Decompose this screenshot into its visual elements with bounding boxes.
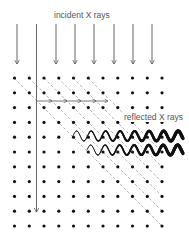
atom-dot bbox=[146, 76, 149, 79]
atom-dot bbox=[146, 224, 149, 227]
atom-dot bbox=[160, 91, 163, 94]
atom-dot bbox=[131, 91, 134, 94]
atom-dot bbox=[72, 224, 75, 227]
atom-dot bbox=[72, 180, 75, 183]
atom-dot bbox=[87, 91, 90, 94]
reflected-xrays-label: reflected X rays bbox=[123, 113, 184, 122]
atom-dot bbox=[146, 106, 149, 109]
atom-dot bbox=[116, 195, 119, 198]
atom-dot bbox=[57, 136, 60, 139]
atom-dot bbox=[42, 224, 45, 227]
atom-dot bbox=[72, 150, 75, 153]
atom-dot bbox=[42, 106, 45, 109]
atom-dot bbox=[116, 150, 119, 153]
atom-dot bbox=[146, 195, 149, 198]
atom-dot bbox=[160, 150, 163, 153]
atom-dot bbox=[131, 224, 134, 227]
atom-dot bbox=[42, 165, 45, 168]
atom-dot bbox=[28, 150, 31, 153]
atom-dot bbox=[101, 195, 104, 198]
atom-dot bbox=[57, 224, 60, 227]
atom-dot bbox=[13, 195, 16, 198]
atom-dot bbox=[13, 224, 16, 227]
atom-dot bbox=[57, 121, 60, 124]
atom-dot bbox=[116, 106, 119, 109]
atom-dot bbox=[116, 165, 119, 168]
atom-dot bbox=[72, 106, 75, 109]
incident-ray-arrows bbox=[17, 24, 152, 64]
atom-dot bbox=[28, 91, 31, 94]
atom-dot bbox=[28, 121, 31, 124]
atom-dot bbox=[131, 150, 134, 153]
atom-dot bbox=[42, 195, 45, 198]
atom-dot bbox=[28, 136, 31, 139]
atom-dot bbox=[146, 210, 149, 213]
atom-dot bbox=[87, 210, 90, 213]
atom-dot bbox=[116, 76, 119, 79]
atom-dot bbox=[72, 91, 75, 94]
atom-dot bbox=[28, 210, 31, 213]
atom-dot bbox=[28, 180, 31, 183]
atom-dot bbox=[13, 210, 16, 213]
atom-dot bbox=[131, 210, 134, 213]
atom-dot bbox=[13, 121, 16, 124]
reflected-wave-icon bbox=[73, 131, 183, 141]
reflected-wave-icon bbox=[87, 145, 183, 155]
atom-dot bbox=[42, 136, 45, 139]
atom-dot bbox=[101, 121, 104, 124]
atom-dot bbox=[57, 195, 60, 198]
atom-dot bbox=[101, 224, 104, 227]
atom-dot bbox=[72, 195, 75, 198]
atom-dot bbox=[57, 165, 60, 168]
atom-dot bbox=[101, 180, 104, 183]
atom-dot bbox=[42, 180, 45, 183]
atom-dot bbox=[57, 91, 60, 94]
atom-dot bbox=[160, 165, 163, 168]
atom-dot bbox=[87, 165, 90, 168]
atom-dot bbox=[13, 91, 16, 94]
atom-dot bbox=[72, 76, 75, 79]
atom-dot bbox=[160, 210, 163, 213]
atom-dot bbox=[28, 106, 31, 109]
atom-dot bbox=[57, 106, 60, 109]
atom-dot bbox=[13, 136, 16, 139]
atom-dot bbox=[72, 136, 75, 139]
atom-dot bbox=[101, 76, 104, 79]
atom-dot bbox=[57, 76, 60, 79]
atom-dot bbox=[57, 180, 60, 183]
atom-dot bbox=[28, 76, 31, 79]
atom-dot bbox=[160, 106, 163, 109]
atom-dot bbox=[116, 210, 119, 213]
atom-dot bbox=[87, 224, 90, 227]
atom-dot bbox=[116, 121, 119, 124]
atom-dot bbox=[28, 165, 31, 168]
atom-dot bbox=[57, 210, 60, 213]
crystal-lattice-atoms bbox=[13, 76, 164, 227]
atom-dot bbox=[87, 180, 90, 183]
atom-dot bbox=[131, 180, 134, 183]
atom-dot bbox=[13, 76, 16, 79]
atom-dot bbox=[101, 150, 104, 153]
atom-dot bbox=[87, 76, 90, 79]
atom-dot bbox=[131, 76, 134, 79]
atom-dot bbox=[116, 180, 119, 183]
atom-dot bbox=[101, 91, 104, 94]
atom-dot bbox=[72, 165, 75, 168]
atom-dot bbox=[131, 106, 134, 109]
atom-dot bbox=[101, 210, 104, 213]
atom-dot bbox=[116, 224, 119, 227]
atom-dot bbox=[42, 91, 45, 94]
atom-dot bbox=[42, 210, 45, 213]
atom-dot bbox=[87, 195, 90, 198]
atom-dot bbox=[116, 91, 119, 94]
atom-dot bbox=[131, 165, 134, 168]
bragg-diffraction-diagram: incident X rays reflected X rays bbox=[0, 0, 189, 240]
atom-dot bbox=[87, 106, 90, 109]
atom-dot bbox=[87, 150, 90, 153]
atom-dot bbox=[72, 121, 75, 124]
atom-dot bbox=[57, 150, 60, 153]
atom-dot bbox=[13, 180, 16, 183]
atom-dot bbox=[42, 150, 45, 153]
atom-dot bbox=[13, 106, 16, 109]
atom-dot bbox=[160, 76, 163, 79]
